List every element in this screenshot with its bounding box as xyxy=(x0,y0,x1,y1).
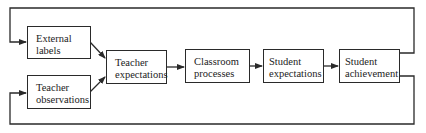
node-external-labels: External labels xyxy=(27,26,91,59)
node-label-line2: observations xyxy=(36,94,90,106)
node-student-expectations: Student expectations xyxy=(263,49,324,83)
node-teacher-expectations: Teacher expectations xyxy=(106,50,167,84)
node-label-line1: Classroom xyxy=(194,56,249,68)
node-label-line1: Teacher xyxy=(36,82,90,94)
node-label-line2: achievement xyxy=(345,68,399,80)
node-label-line2: expectations xyxy=(269,68,323,80)
node-label-line2: processes xyxy=(194,68,249,80)
arrow-external-to-expectations xyxy=(90,42,105,58)
node-label-line1: Teacher xyxy=(115,57,166,69)
node-student-achievement: Student achievement xyxy=(339,49,400,83)
node-label-line2: expectations xyxy=(115,69,166,81)
node-classroom-processes: Classroom processes xyxy=(185,49,250,83)
node-label-line1: Student xyxy=(345,56,399,68)
node-label-line1: Student xyxy=(269,56,323,68)
node-teacher-observations: Teacher observations xyxy=(27,75,91,109)
arrow-observations-to-expectations xyxy=(90,77,105,92)
node-label-line2: labels xyxy=(36,45,90,57)
node-label-line1: External xyxy=(36,33,90,45)
